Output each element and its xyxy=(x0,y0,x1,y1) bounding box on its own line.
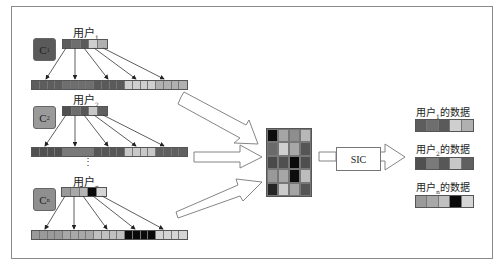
output-label-post: 的数据 xyxy=(440,182,470,193)
grid-cell xyxy=(289,156,300,169)
grid-cell xyxy=(278,129,289,142)
grid-cell xyxy=(267,169,278,182)
grid-cell xyxy=(267,156,278,169)
output-bar-1 xyxy=(415,119,474,132)
output-label-post: 的数据 xyxy=(440,107,470,118)
grid-cell xyxy=(267,183,278,196)
spread-lines-n xyxy=(45,196,163,229)
output-label-1: 用户1的数据 xyxy=(416,104,470,120)
bar-cell xyxy=(416,120,427,131)
grid-cell xyxy=(300,169,311,182)
grid-cell xyxy=(278,156,289,169)
combined-signal-grid xyxy=(266,128,312,197)
grid-cell xyxy=(300,142,311,155)
output-bar-2 xyxy=(415,157,474,170)
spread-lines-1 xyxy=(46,48,164,79)
grid-cell xyxy=(300,183,311,196)
grid-cell xyxy=(289,129,300,142)
grid-cell xyxy=(267,142,278,155)
grid-cell xyxy=(278,169,289,182)
grid-cell xyxy=(300,129,311,142)
bar-cell xyxy=(416,158,427,169)
output-bar-n xyxy=(415,195,474,208)
bar-cell xyxy=(416,196,427,207)
grid-cell xyxy=(278,183,289,196)
bar-cell xyxy=(450,196,461,207)
sic-decoder-box: SIC xyxy=(336,147,381,171)
bar-cell xyxy=(450,158,461,169)
bar-cell xyxy=(439,120,450,131)
output-label-pre: 用户 xyxy=(416,107,436,118)
output-label-pre: 用户 xyxy=(416,182,436,193)
bar-cell xyxy=(427,120,438,131)
grid-cell xyxy=(278,142,289,155)
grid-cell xyxy=(267,129,278,142)
arrows-layer xyxy=(0,0,500,271)
grid-cell xyxy=(289,169,300,182)
bar-cell xyxy=(427,196,438,207)
sic-label: SIC xyxy=(351,154,367,165)
bar-cell xyxy=(462,120,473,131)
bar-cell xyxy=(462,196,473,207)
spread-lines-2 xyxy=(45,115,164,146)
bar-cell xyxy=(427,158,438,169)
grid-cell xyxy=(289,142,300,155)
output-label-post: 的数据 xyxy=(440,144,470,155)
grid-cell xyxy=(300,156,311,169)
bar-cell xyxy=(439,196,450,207)
output-label-2: 用户2的数据 xyxy=(416,141,470,157)
output-label-n: 用户n的数据 xyxy=(416,179,470,195)
bar-cell xyxy=(450,120,461,131)
bar-cell xyxy=(439,158,450,169)
bar-cell xyxy=(462,158,473,169)
grid-cell xyxy=(289,183,300,196)
output-label-pre: 用户 xyxy=(416,144,436,155)
